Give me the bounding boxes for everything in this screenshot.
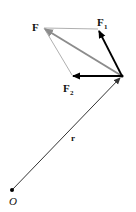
force-diagram: F F 1 F 2 r O [0, 0, 136, 212]
position-vector-r [12, 78, 120, 190]
label-f1-subscript: 1 [104, 23, 108, 31]
application-point [120, 74, 123, 77]
construction-line-f-to-f2 [44, 28, 72, 75]
label-r: r [71, 133, 75, 143]
origin-point [10, 188, 14, 192]
label-origin: O [9, 195, 17, 207]
construction-line-f-to-f1 [44, 28, 98, 29]
label-f1: F [97, 16, 104, 28]
label-f2-subscript: 2 [70, 89, 74, 97]
label-f: F [32, 21, 39, 33]
label-f2: F [63, 82, 70, 94]
